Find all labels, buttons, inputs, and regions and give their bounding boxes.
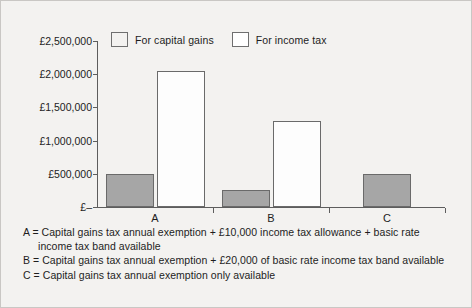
x-axis-label-c: C — [383, 212, 391, 224]
y-tick-label: £1,000,000 — [39, 135, 92, 146]
bar-c-capital-gains — [363, 174, 411, 207]
legend-label-capital-gains: For capital gains — [135, 34, 214, 46]
y-tick-mark — [93, 141, 98, 142]
footnote-b: B = Capital gains tax annual exemption +… — [23, 254, 455, 268]
legend-swatch-income-tax — [232, 32, 249, 47]
x-axis-line — [97, 207, 445, 208]
footnotes: A = Capital gains tax annual exemption +… — [23, 226, 455, 283]
y-tick-label: £2,000,000 — [39, 69, 92, 80]
bar-a-capital-gains — [106, 174, 154, 207]
x-tick-mark — [445, 208, 446, 213]
y-tick-mark — [93, 107, 98, 108]
bar-a-income-tax — [157, 71, 205, 207]
y-tick-mark — [93, 41, 98, 42]
y-tick-mark — [93, 174, 98, 175]
bar-b-income-tax — [273, 121, 321, 207]
x-axis-label-b: B — [267, 212, 274, 224]
x-tick-mark — [213, 208, 214, 213]
chart-figure: For capital gains For income tax £2,500,… — [0, 0, 472, 308]
bar-b-capital-gains — [222, 190, 270, 207]
chart-legend: For capital gains For income tax — [111, 32, 327, 47]
legend-label-income-tax: For income tax — [256, 34, 327, 46]
y-tick-mark — [93, 207, 98, 208]
y-tick-mark — [93, 74, 98, 75]
footnote-a: A = Capital gains tax annual exemption +… — [23, 226, 455, 253]
x-tick-mark — [329, 208, 330, 213]
y-tick-label: £500,000 — [48, 169, 92, 180]
legend-item-income-tax: For income tax — [232, 32, 327, 47]
y-tick-label: £– — [80, 202, 92, 213]
y-axis-line — [97, 41, 98, 208]
x-axis-label-a: A — [151, 212, 158, 224]
y-tick-label: £2,500,000 — [39, 36, 92, 47]
legend-swatch-capital-gains — [111, 32, 128, 47]
plot-area: £2,500,000£2,000,000£1,500,000£1,000,000… — [97, 41, 445, 208]
legend-item-capital-gains: For capital gains — [111, 32, 214, 47]
y-tick-label: £1,500,000 — [39, 102, 92, 113]
footnote-c: C = Capital gains tax annual exemption o… — [23, 269, 455, 283]
